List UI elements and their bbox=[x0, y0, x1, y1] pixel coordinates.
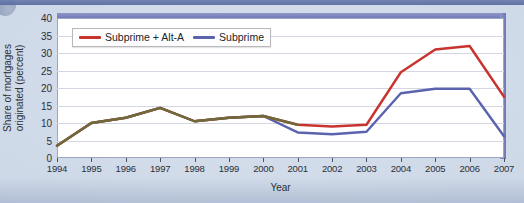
x-axis-tick bbox=[195, 158, 196, 162]
x-axis-tick-label: 1994 bbox=[47, 163, 67, 174]
legend-color-swatch bbox=[79, 36, 101, 39]
x-axis-tick-label: 1995 bbox=[81, 163, 101, 174]
x-axis-tick bbox=[401, 158, 402, 162]
x-axis-tick-label: 2000 bbox=[253, 163, 273, 174]
page-bottom-shading bbox=[0, 177, 524, 203]
x-axis-tick bbox=[229, 158, 230, 162]
y-axis-tick-label: 25 bbox=[30, 65, 52, 76]
y-axis-tick-label: 5 bbox=[30, 135, 52, 146]
x-axis-tick-label: 2001 bbox=[288, 163, 308, 174]
x-axis-tick-label: 2002 bbox=[322, 163, 342, 174]
y-axis-tick-label: 20 bbox=[30, 83, 52, 94]
legend-label: Subprime bbox=[219, 31, 264, 43]
y-axis-tick-label: 0 bbox=[30, 153, 52, 164]
figure-page-background: 0510152025303540 19941995199619971998199… bbox=[0, 0, 524, 203]
x-axis-tick-label: 1996 bbox=[116, 163, 136, 174]
x-axis-tick-label: 1997 bbox=[150, 163, 170, 174]
x-axis-tick bbox=[435, 158, 436, 162]
series-line-overlap bbox=[57, 108, 298, 146]
legend-item: Subprime + Alt-A bbox=[79, 31, 184, 43]
x-axis-tick-label: 1999 bbox=[219, 163, 239, 174]
y-axis-tick-label: 15 bbox=[30, 100, 52, 111]
y-axis-title-line1: Share of mortgages bbox=[2, 44, 13, 132]
x-axis-tick bbox=[57, 158, 58, 162]
y-axis-tick-label: 10 bbox=[30, 118, 52, 129]
x-axis-tick-label: 2006 bbox=[459, 163, 479, 174]
x-axis-tick-label: 2004 bbox=[391, 163, 411, 174]
x-axis-tick bbox=[470, 158, 471, 162]
x-axis-tick bbox=[263, 158, 264, 162]
x-axis-tick bbox=[160, 158, 161, 162]
x-axis-tick-label: 2007 bbox=[494, 163, 514, 174]
x-axis-tick bbox=[91, 158, 92, 162]
x-axis-tick bbox=[332, 158, 333, 162]
line-chart: 0510152025303540 19941995199619971998199… bbox=[57, 18, 504, 158]
x-axis-tick bbox=[298, 158, 299, 162]
x-axis-tick bbox=[126, 158, 127, 162]
x-axis-tick bbox=[366, 158, 367, 162]
y-axis-title: Share of mortgages originated (percent) bbox=[2, 18, 25, 158]
y-axis-title-line2: originated (percent) bbox=[13, 45, 24, 132]
legend-item: Subprime bbox=[193, 31, 264, 43]
x-axis-tick-label: 1998 bbox=[184, 163, 204, 174]
legend-label: Subprime + Alt-A bbox=[105, 31, 184, 43]
x-axis-tick bbox=[504, 158, 505, 162]
chart-legend: Subprime + Alt-ASubprime bbox=[72, 28, 271, 47]
page-top-rule bbox=[0, 0, 524, 5]
y-axis-tick-label: 30 bbox=[30, 48, 52, 59]
x-axis-tick-label: 2005 bbox=[425, 163, 445, 174]
series-line-subprime-alt-a bbox=[57, 46, 504, 146]
y-axis-tick-label: 35 bbox=[30, 30, 52, 41]
x-axis-tick-label: 2003 bbox=[356, 163, 376, 174]
legend-color-swatch bbox=[193, 36, 215, 39]
x-axis-title: Year bbox=[270, 182, 290, 193]
y-axis-tick-label: 40 bbox=[30, 13, 52, 24]
